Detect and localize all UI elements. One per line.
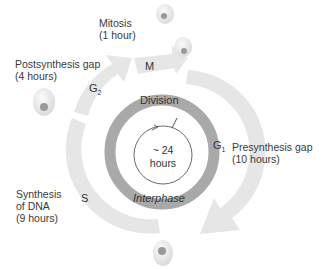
duration-unit: hours (148, 157, 178, 170)
division-label: Division (140, 94, 179, 107)
postsynthesis-gap-label: Postsynthesis gap (4 hours) (15, 58, 100, 82)
mitosis-label: Mitosis (1 hour) (99, 17, 136, 41)
cell-cycle-diagram: Division Interphase ~ 24 hours M G2 G1 S… (0, 0, 324, 269)
cycle-graphic (0, 0, 324, 269)
center-tick (172, 118, 177, 128)
cell-icon (174, 37, 192, 57)
phase-m-symbol: M (145, 60, 154, 72)
cycle-duration: ~ 24 hours (148, 144, 178, 170)
phase-g2-symbol: G2 (89, 82, 101, 96)
duration-value: ~ 24 (148, 144, 178, 157)
interphase-label: Interphase (133, 192, 185, 205)
phase-g1-symbol: G1 (213, 139, 225, 153)
cell-icon (33, 88, 55, 116)
presynthesis-gap-label: Presynthesis gap (10 hours) (232, 141, 313, 165)
synthesis-label: Synthesis of DNA (9 hours) (16, 188, 62, 224)
phase-s-symbol: S (81, 192, 88, 204)
